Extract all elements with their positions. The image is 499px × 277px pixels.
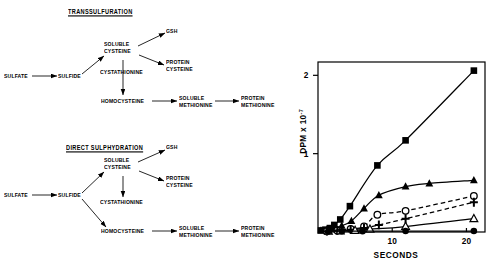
- chart-x-axis-label: SECONDS: [293, 250, 499, 260]
- node-sulfide: SULFIDE: [58, 192, 81, 199]
- node-protein-methionine-line2: METHIONINE: [241, 232, 274, 239]
- node-protein-cysteine-line2: CYSTEINE: [166, 182, 193, 189]
- data-point-open-triangle: [470, 214, 478, 221]
- node-protein-cysteine-line1: PROTEIN: [166, 175, 190, 182]
- node-gsh: GSH: [166, 28, 178, 35]
- series-filled-square: [318, 67, 477, 233]
- node-soluble-cysteine-line2: CYSTEINE: [104, 48, 131, 55]
- transsulfuration-title: TRANSSULFURATION: [68, 9, 133, 16]
- data-point-filled-square: [402, 137, 409, 144]
- x-tick-label-20: 20: [454, 236, 478, 246]
- y-tick-label-1: 1: [294, 149, 318, 159]
- data-point-filled-square: [347, 203, 354, 210]
- node-soluble-cysteine-line1: SOLUBLE: [104, 41, 129, 48]
- data-point-plus-cross: [470, 198, 478, 207]
- kinetics-chart-panel: DPM x 10-7 SECONDS 10 20 1 2: [293, 0, 499, 277]
- series-open-circle: [324, 193, 478, 235]
- data-point-filled-circle: [471, 228, 478, 235]
- data-point-open-circle: [402, 208, 409, 215]
- pathway-diagram-transsulfuration: TRANSSULFURATION SULFATE SULFIDE SOLUBLE…: [0, 0, 293, 138]
- node-sulfate: SULFATE: [4, 192, 28, 199]
- data-point-filled-circle: [338, 228, 345, 235]
- node-protein-cysteine-line1: PROTEIN: [166, 59, 190, 66]
- series-plus-cross: [323, 198, 478, 236]
- data-point-filled-triangle: [470, 176, 478, 183]
- data-point-open-circle: [374, 211, 381, 218]
- data-point-filled-circle: [325, 228, 332, 235]
- node-protein-cysteine-line2: CYSTEINE: [166, 66, 193, 73]
- node-soluble-methionine-line2: METHIONINE: [179, 232, 212, 239]
- data-point-filled-circle: [402, 228, 409, 235]
- series-filled-triangle: [317, 176, 478, 233]
- node-homocysteine: HOMOCYSTEINE: [101, 228, 144, 235]
- node-cystathionine: CYSTATHIONINE: [100, 199, 143, 206]
- node-soluble-methionine-line1: SOLUBLE: [179, 225, 204, 232]
- figure-root: TRANSSULFURATION SULFATE SULFIDE SOLUBLE…: [0, 0, 499, 277]
- data-point-filled-triangle: [375, 191, 383, 198]
- y-tick-label-2: 2: [294, 70, 318, 80]
- data-point-filled-circle: [359, 228, 366, 235]
- node-soluble-cysteine-line1: SOLUBLE: [104, 157, 129, 164]
- node-protein-methionine-line1: PROTEIN: [241, 225, 265, 232]
- node-sulfide: SULFIDE: [58, 73, 81, 80]
- transsulfuration-arrows: [0, 0, 293, 138]
- node-sulfate: SULFATE: [4, 73, 28, 80]
- node-gsh: GSH: [166, 144, 178, 151]
- direct-sulphydration-arrows: [0, 139, 293, 277]
- node-soluble-cysteine-line2: CYSTEINE: [104, 164, 131, 171]
- data-point-filled-square: [337, 216, 344, 223]
- series-line-filled-square: [321, 71, 474, 231]
- data-point-filled-square: [374, 162, 381, 169]
- data-point-filled-square: [471, 67, 478, 74]
- series-line-filled-triangle: [321, 180, 474, 230]
- x-tick-label-10: 10: [380, 236, 404, 246]
- direct-sulphydration-title: DIRECT SULPHYDRATION: [66, 145, 143, 152]
- pathway-diagram-direct-sulphydration: DIRECT SULPHYDRATION SULFATE SULFIDE SOL…: [0, 139, 293, 277]
